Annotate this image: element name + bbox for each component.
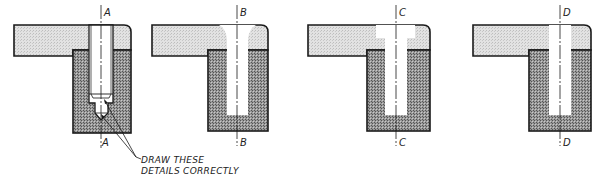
note-line-1: DRAW THESE <box>141 155 204 165</box>
section-label-top: D <box>563 7 571 18</box>
note-line-2: DETAILS CORRECTLY <box>141 166 240 176</box>
section-label-bottom: D <box>563 137 571 148</box>
drawing-canvas: A A DRAW THESE DETAILS CORRECTLY B B C C… <box>0 0 597 177</box>
figure-d: D D <box>473 5 591 148</box>
figure-c: C C <box>308 5 430 148</box>
figure-a: A A <box>14 5 141 159</box>
section-label-top: C <box>399 7 406 18</box>
section-label-bottom: B <box>240 137 247 148</box>
section-label-top: B <box>240 7 247 18</box>
figure-b: B B <box>152 5 268 148</box>
section-label-top: A <box>103 7 111 18</box>
section-label-bottom: C <box>399 137 406 148</box>
section-label-bottom: A <box>101 137 109 148</box>
